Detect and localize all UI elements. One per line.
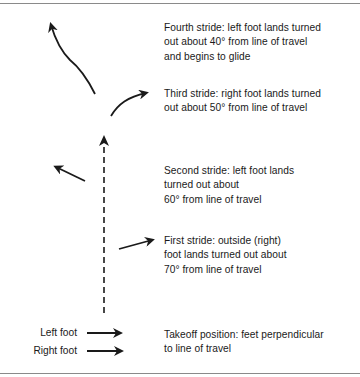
caption-line: to line of travel (164, 342, 324, 356)
caption-line: Third stride: right foot lands turned (164, 87, 321, 101)
fourth-stride-arrow-icon (51, 25, 95, 94)
line-of-travel-arrowhead-icon (99, 135, 109, 146)
first-stride-caption: First stride: outside (right) foot lands… (164, 234, 287, 277)
takeoff-caption: Takeoff position: feet perpendicular to … (164, 328, 324, 357)
caption-line: Takeoff position: feet perpendicular (164, 328, 324, 342)
caption-line: foot lands turned out about (164, 248, 287, 262)
bottom-border-rule (0, 373, 360, 374)
third-stride-arrow-icon (111, 93, 146, 116)
caption-line: turned out about (164, 178, 294, 192)
caption-line: 60° from line of travel (164, 193, 294, 207)
caption-line: First stride: outside (right) (164, 234, 287, 248)
second-stride-caption: Second stride: left foot lands turned ou… (164, 164, 294, 207)
right-foot-label: Right foot (33, 345, 77, 357)
caption-line: Second stride: left foot lands (164, 164, 294, 178)
caption-line: and begins to glide (164, 50, 321, 64)
third-stride-caption: Third stride: right foot lands turned ou… (164, 87, 321, 116)
caption-line: out about 40° from line of travel (164, 35, 321, 49)
fourth-stride-caption: Fourth stride: left foot lands turned ou… (164, 21, 321, 64)
caption-line: Fourth stride: left foot lands turned (164, 21, 321, 35)
caption-line: 70° from line of travel (164, 263, 287, 277)
second-stride-arrow-icon (56, 167, 85, 181)
first-stride-arrow-icon (119, 240, 152, 249)
left-foot-label: Left foot (40, 327, 77, 339)
caption-line: out about 50° from line of travel (164, 101, 321, 115)
